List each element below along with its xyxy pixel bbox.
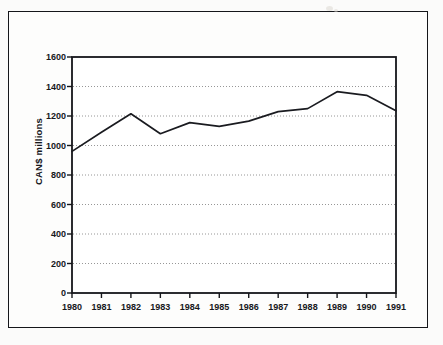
y-axis-tick-label: 1400 (28, 82, 66, 92)
x-axis-tick-label: 1984 (180, 302, 200, 312)
line-chart-figure: CAN$ millions 02004006008001000120014001… (0, 0, 443, 345)
x-axis-tick-label: 1986 (239, 302, 259, 312)
chart-page: CAN$ millions 02004006008001000120014001… (0, 0, 443, 345)
x-axis-tick-label: 1988 (298, 302, 318, 312)
x-axis-tick-label: 1982 (121, 302, 141, 312)
x-axis-tick-label: 1985 (209, 302, 229, 312)
y-axis-tick-label: 200 (28, 259, 66, 269)
y-axis-tick-label: 0 (28, 288, 66, 298)
x-axis-tick-label: 1987 (268, 302, 288, 312)
y-axis-tick-label: 1000 (28, 141, 66, 151)
chart-canvas (0, 0, 443, 345)
x-axis-tick-label: 1991 (386, 302, 406, 312)
x-axis-tick-label: 1980 (62, 302, 82, 312)
scan-speck (326, 6, 333, 11)
scan-speck (334, 9, 338, 12)
y-axis-tick-label: 800 (28, 170, 66, 180)
y-axis-tick-label: 1600 (28, 52, 66, 62)
x-axis-tick-label: 1989 (327, 302, 347, 312)
y-axis-tick-label: 600 (28, 200, 66, 210)
x-axis-tick-label: 1983 (150, 302, 170, 312)
y-axis-tick-label: 1200 (28, 111, 66, 121)
y-axis-tick-label: 400 (28, 229, 66, 239)
x-axis-tick-label: 1981 (91, 302, 111, 312)
x-axis-tick-label: 1990 (357, 302, 377, 312)
